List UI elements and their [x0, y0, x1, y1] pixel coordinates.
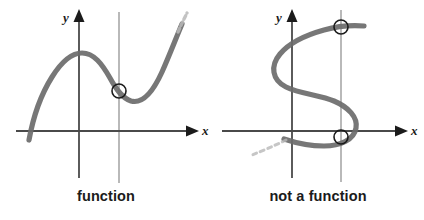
not-a-function-curve: [274, 26, 364, 146]
y-axis-label: y: [61, 10, 69, 25]
vertical-line-test-figure: x y function x y: [0, 0, 424, 220]
panel-function: x y function: [0, 0, 212, 220]
panel-caption-not-a-function: not a function: [212, 188, 424, 204]
not-a-function-curve-faint-tail: [252, 140, 286, 155]
not-a-function-diagram: x y: [212, 0, 424, 190]
x-axis-label: x: [410, 123, 418, 138]
function-diagram: x y: [0, 0, 212, 190]
x-axis-arrow-icon: [395, 126, 408, 137]
panel-not-a-function: x y not a function: [212, 0, 424, 220]
function-curve: [29, 24, 182, 140]
y-axis-label: y: [274, 10, 282, 25]
y-axis-arrow-icon: [287, 9, 298, 22]
panel-caption-function: function: [0, 188, 212, 204]
x-axis-label: x: [201, 123, 209, 138]
x-axis-arrow-icon: [186, 126, 199, 137]
y-axis-arrow-icon: [74, 9, 85, 22]
